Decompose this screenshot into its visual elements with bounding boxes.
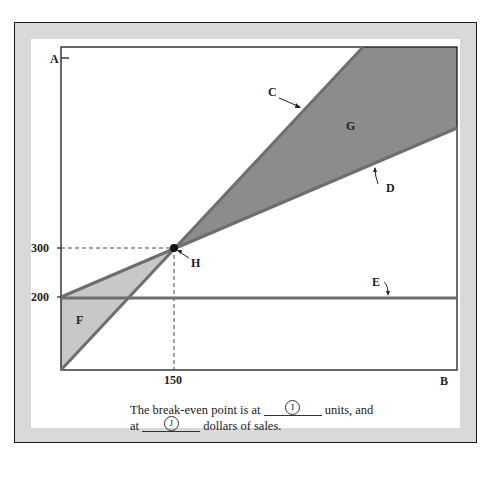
answer-blank-i[interactable]: I [264,402,322,416]
line-label-c: C [268,85,277,99]
x-axis-label-b: B [440,374,448,388]
blank-marker-j: J [164,416,179,431]
caption-line2-before: at [130,419,139,433]
region-label-f: F [76,313,83,327]
caption-line1-before: The break-even point is at [130,403,261,417]
caption-line2-after: dollars of sales. [203,419,281,433]
revenue-line-c [61,47,363,370]
line-label-e: E [372,275,380,289]
region-label-g: G [346,119,355,133]
caption-line1-after: units, and [325,403,374,417]
y-tick-label-300: 300 [31,241,49,255]
answer-blank-j[interactable]: J [142,418,200,432]
blank-marker-i: I [285,400,300,415]
y-axis-label-a: A [50,52,59,66]
question-caption: The break-even point is at I units, and … [130,402,410,434]
y-tick-label-200: 200 [31,290,49,304]
x-tick-label-150: 150 [164,373,182,387]
total-cost-line-d [61,128,457,297]
line-label-d: D [386,181,395,195]
break-even-point-h [170,244,178,252]
point-label-h: H [191,256,201,270]
